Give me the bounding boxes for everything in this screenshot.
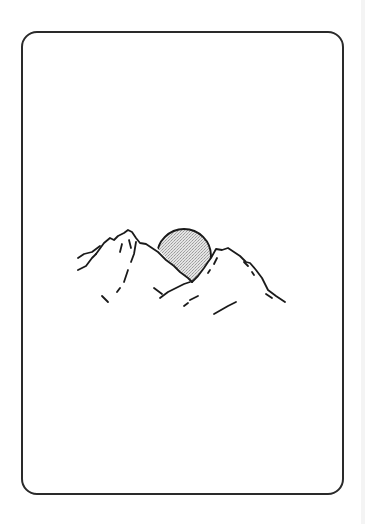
card-frame: [21, 31, 344, 495]
scroll-edge-strip: [361, 0, 365, 524]
